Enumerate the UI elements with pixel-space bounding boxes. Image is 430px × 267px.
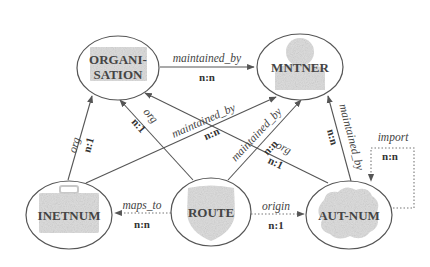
- edge-relation-label: origin: [262, 200, 290, 213]
- node-label: MNTNER: [271, 60, 329, 75]
- node-route: ROUTE: [171, 178, 251, 246]
- edge-cardinality-label: n:1: [80, 136, 96, 154]
- edge-line: [145, 93, 328, 183]
- edge-route-inetnum: maps_to n:n: [115, 199, 171, 230]
- edge-inetnum-org: org n:1: [66, 96, 96, 180]
- edge-cardinality-label: n:1: [129, 116, 148, 135]
- edge-route-autnum: origin n:1: [251, 200, 304, 231]
- edge-relation-label: import: [378, 131, 409, 144]
- node-autnum: AUT-NUM: [306, 181, 392, 249]
- node-organisation: ORGANI- SATION: [77, 36, 159, 100]
- edge-cardinality-label: n:n: [134, 218, 150, 230]
- edge-autnum-org: org n:1: [145, 93, 328, 183]
- edge-cardinality-label: n:n: [202, 125, 221, 142]
- node-label: SATION: [94, 67, 143, 82]
- edge-line: [228, 100, 301, 180]
- node-label: ROUTE: [188, 205, 234, 220]
- edge-autnum-mntner: maintained_by n:n: [325, 96, 367, 181]
- edge-cardinality-label: n:1: [268, 219, 283, 231]
- edge-cardinality-label: n:n: [199, 71, 215, 83]
- node-inetnum: INETNUM: [26, 181, 112, 249]
- node-label: ORGANI-: [89, 52, 147, 67]
- edge-org-mntner: maintained_by n:n: [160, 52, 254, 83]
- edge-cardinality-label: n:n: [260, 137, 280, 157]
- edge-relation-label: maintained_by: [173, 52, 242, 65]
- edge-relation-label: maintained_by: [336, 102, 366, 172]
- node-mntner: MNTNER: [257, 34, 343, 100]
- node-label: AUT-NUM: [318, 208, 380, 223]
- edge-cardinality-label: n:n: [325, 128, 341, 146]
- rpsl-object-diagram: maintained_by n:n org n:1 org n:1 org n:…: [0, 0, 430, 267]
- edge-relation-label: maps_to: [123, 199, 162, 212]
- node-label: INETNUM: [38, 208, 101, 223]
- edge-cardinality-label: n:n: [382, 150, 398, 162]
- edge-route-mntner: maintained_by n:n: [228, 100, 301, 180]
